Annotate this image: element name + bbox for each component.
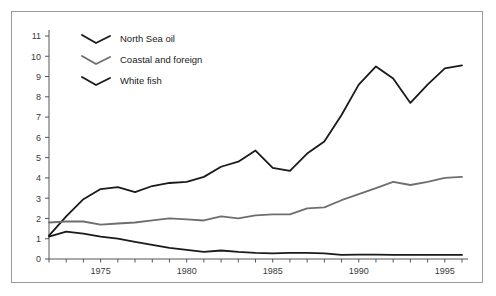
y-axis-tick-label: 6: [36, 133, 41, 143]
line-chart-svg: 01234567891011 19751980198519901995 Nort…: [12, 12, 482, 282]
y-axis-tick-label: 11: [32, 31, 41, 41]
y-axis-tick-label: 0: [36, 254, 41, 264]
y-axis-tick-label: 7: [36, 112, 41, 122]
y-axis-tick-labels: 01234567891011: [31, 31, 49, 264]
x-axis-tick-label: 1995: [435, 266, 455, 276]
y-axis-tick-label: 8: [36, 92, 41, 102]
x-axis-tick-label: 1985: [263, 266, 283, 276]
legend-marker-icon: [82, 77, 110, 85]
series-line: [49, 65, 462, 235]
chart-figure: 01234567891011 19751980198519901995 Nort…: [0, 0, 496, 296]
legend-entry-label: White fish: [120, 75, 162, 86]
y-axis-tick-label: 1: [36, 234, 41, 244]
x-axis-tick-label: 1975: [91, 266, 111, 276]
series-line: [49, 232, 462, 255]
y-axis-tick-label: 3: [36, 194, 41, 204]
x-axis-tick-label: 1980: [177, 266, 197, 276]
legend-entry-label: Coastal and foreign: [120, 54, 202, 65]
legend-marker-icon: [82, 35, 110, 43]
series-line: [49, 177, 462, 225]
y-axis-tick-label: 9: [36, 72, 41, 82]
legend-marker-icon: [82, 56, 110, 64]
x-axis-tick-label: 1990: [349, 266, 369, 276]
data-series-group: [49, 65, 462, 255]
legend-entry-label: North Sea oil: [120, 33, 175, 44]
chart-frame: 01234567891011 19751980198519901995 Nort…: [11, 11, 483, 283]
y-axis-tick-label: 4: [36, 173, 41, 183]
x-axis-tick-labels: 19751980198519901995: [49, 259, 462, 276]
chart-legend: North Sea oilCoastal and foreignWhite fi…: [82, 33, 202, 86]
y-axis-tick-label: 10: [31, 52, 41, 62]
y-axis-tick-label: 5: [36, 153, 41, 163]
y-axis-tick-label: 2: [36, 214, 41, 224]
